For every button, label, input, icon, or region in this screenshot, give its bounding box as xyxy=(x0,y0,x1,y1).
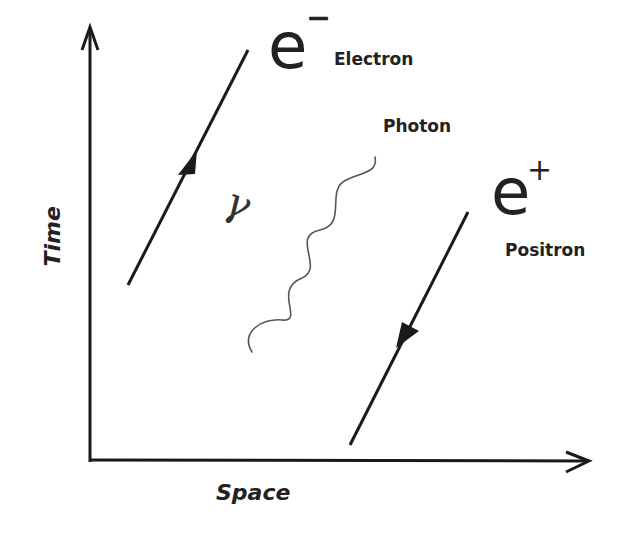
time-axis-label: Time xyxy=(40,207,65,267)
photon-wavy-line xyxy=(249,157,376,352)
electron-charge: − xyxy=(306,0,331,35)
positron-symbol: e xyxy=(491,160,530,224)
positron-name-label: Positron xyxy=(505,240,585,260)
space-axis-label: Space xyxy=(216,480,290,505)
positron-direction-arrow-icon xyxy=(396,322,419,348)
electron-symbol: e xyxy=(268,14,307,78)
positron-e: e xyxy=(491,155,530,229)
electron-worldline xyxy=(128,50,248,285)
space-axis xyxy=(89,452,589,472)
time-axis xyxy=(82,27,98,462)
positron-worldline xyxy=(350,212,468,445)
electron-name-label: Electron xyxy=(334,49,413,69)
feynman-diagram xyxy=(0,0,631,544)
photon-name-label: Photon xyxy=(383,116,451,136)
positron-charge: + xyxy=(527,152,552,187)
electron-e: e xyxy=(268,9,307,83)
